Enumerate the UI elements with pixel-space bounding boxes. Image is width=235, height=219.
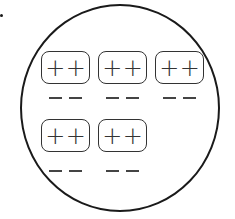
positive-pair-box: + + [41, 51, 90, 84]
minus-sign [69, 170, 82, 172]
minus-sign [126, 97, 139, 99]
negative-pair [41, 170, 90, 172]
minus-sign [49, 97, 62, 99]
plus-sign: + [159, 56, 179, 80]
marker-dot [0, 14, 3, 17]
minus-sign [49, 170, 62, 172]
positive-pair-box: + + [41, 119, 90, 152]
plus-sign: + [102, 56, 122, 80]
container-circle [20, 4, 220, 212]
positive-pair-box: + + [155, 51, 204, 84]
plus-sign: + [45, 124, 65, 148]
minus-sign [69, 97, 82, 99]
minus-sign [183, 97, 196, 99]
minus-sign [126, 170, 139, 172]
minus-sign [106, 170, 119, 172]
minus-sign [163, 97, 176, 99]
plus-sign: + [102, 124, 122, 148]
plus-sign: + [45, 56, 65, 80]
positive-pair-box: + + [98, 51, 147, 84]
plus-sign: + [123, 124, 143, 148]
plus-sign: + [66, 124, 86, 148]
plus-sign: + [123, 56, 143, 80]
plus-sign: + [66, 56, 86, 80]
positive-pair-box: + + [98, 119, 147, 152]
negative-pair [41, 97, 90, 99]
negative-pair [98, 170, 147, 172]
negative-pair [98, 97, 147, 99]
plus-sign: + [180, 56, 200, 80]
negative-pair [155, 97, 204, 99]
minus-sign [106, 97, 119, 99]
